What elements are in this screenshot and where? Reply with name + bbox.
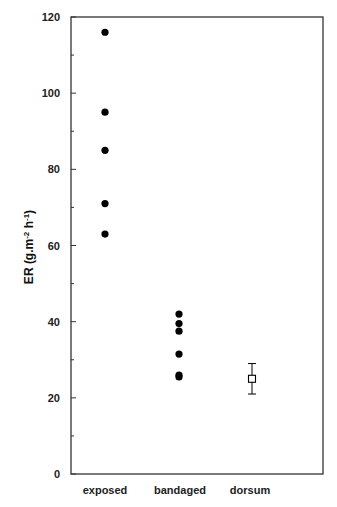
x-axis-category-labels: exposedbandageddorsum bbox=[83, 484, 271, 496]
mean-marker-dorsum bbox=[249, 375, 256, 382]
y-axis-ticks bbox=[71, 17, 76, 474]
data-point-bandaged bbox=[175, 328, 182, 335]
data-point-exposed bbox=[101, 230, 108, 237]
data-point-exposed bbox=[101, 147, 108, 154]
data-point-exposed bbox=[101, 29, 108, 36]
y-tick-label: 100 bbox=[42, 87, 60, 99]
y-axis-label: ER (g.m-2 h-1) bbox=[22, 210, 37, 284]
plot-frame bbox=[71, 17, 323, 474]
category-label-bandaged: bandaged bbox=[154, 484, 206, 496]
data-points bbox=[101, 29, 256, 394]
data-point-bandaged bbox=[175, 310, 182, 317]
data-point-exposed bbox=[101, 109, 108, 116]
data-point-bandaged bbox=[175, 320, 182, 327]
data-point-exposed bbox=[101, 200, 108, 207]
data-point-bandaged bbox=[175, 350, 182, 357]
y-tick-label: 80 bbox=[48, 163, 60, 175]
category-label-dorsum: dorsum bbox=[230, 484, 271, 496]
y-tick-label: 60 bbox=[48, 240, 60, 252]
chart: 020406080100120 exposedbandageddorsum ER… bbox=[0, 0, 337, 507]
data-point-bandaged bbox=[175, 373, 182, 380]
y-tick-label: 20 bbox=[48, 392, 60, 404]
y-tick-label: 40 bbox=[48, 316, 60, 328]
plot-border bbox=[71, 17, 323, 474]
y-tick-label: 0 bbox=[54, 468, 60, 480]
y-axis-tick-labels: 020406080100120 bbox=[42, 11, 60, 480]
category-label-exposed: exposed bbox=[83, 484, 128, 496]
y-tick-label: 120 bbox=[42, 11, 60, 23]
